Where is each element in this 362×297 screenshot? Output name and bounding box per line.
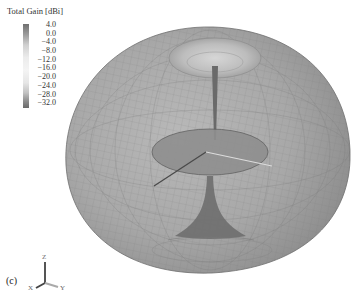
coordinate-triad xyxy=(36,262,58,288)
axis-label-z: Z xyxy=(42,253,46,261)
pattern-surface xyxy=(0,0,362,297)
axis-label-x: X xyxy=(28,284,33,292)
panel-label: (c) xyxy=(6,275,17,286)
axis-label-y: Y xyxy=(60,284,65,292)
ground-plane-disc xyxy=(152,129,268,175)
radiation-pattern-figure: Total Gain [dBi] 4.0 0.0 −4.0 −8.0 −12.0… xyxy=(0,0,362,297)
